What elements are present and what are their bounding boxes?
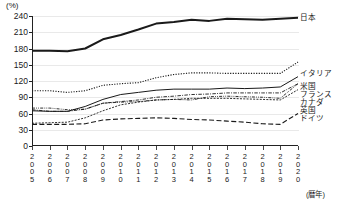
x-axis-label-digit: 0 — [115, 176, 127, 184]
y-axis-tick-label: 90 — [19, 93, 28, 102]
legend-item-label: 日本 — [300, 14, 316, 22]
x-axis-label-digit: 7 — [239, 176, 251, 184]
x-axis-tick — [227, 146, 228, 150]
y-axis-unit-label: (%) — [6, 1, 18, 10]
x-axis-label-digit: 2 — [150, 176, 162, 184]
x-axis-tick — [138, 146, 139, 150]
x-axis-tick-label: 2014 — [186, 153, 198, 183]
x-axis-label-digit: 8 — [79, 176, 91, 184]
legend-item-label: ドイツ — [300, 115, 324, 123]
x-axis-label-digit: 9 — [97, 176, 109, 184]
x-axis-tick-label: 2005 — [26, 153, 38, 183]
y-axis-tick-label: 120 — [14, 77, 28, 86]
y-axis-tick-label: 150 — [14, 61, 28, 70]
y-axis-tick-label: 60 — [19, 109, 28, 118]
x-axis-tick-label: 2011 — [132, 153, 144, 183]
legend-item-イタリア[interactable]: イタリア — [300, 70, 332, 78]
x-axis-tick-label: 2013 — [168, 153, 180, 183]
x-axis-label-digit: 1 — [132, 176, 144, 184]
x-axis-tick — [298, 146, 299, 150]
x-axis-tick — [280, 146, 281, 150]
x-axis-tick — [32, 146, 33, 150]
x-axis-label-digit: 4 — [186, 176, 198, 184]
y-axis-tick-label: 240 — [14, 12, 28, 21]
x-axis-tick — [174, 146, 175, 150]
x-axis-label-digit: 5 — [203, 176, 215, 184]
x-axis-label-digit: 8 — [257, 176, 269, 184]
legend: 日本イタリア米国フランスカナダ英国ドイツ — [300, 0, 355, 150]
x-axis-caption: (暦年) — [306, 188, 325, 199]
y-axis-tick-label: 210 — [14, 28, 28, 37]
x-axis-tick — [245, 146, 246, 150]
legend-item-label: イタリア — [300, 70, 332, 78]
x-axis-label-digit: 0 — [292, 176, 304, 184]
x-axis-tick — [263, 146, 264, 150]
y-axis-tick-label: 0 — [23, 142, 28, 151]
legend-item-ドイツ[interactable]: ドイツ — [300, 115, 324, 123]
x-axis-tick-label: 2006 — [44, 153, 56, 183]
x-axis-tick-label: 2007 — [61, 153, 73, 183]
x-axis-tick — [85, 146, 86, 150]
series-line-ドイツ — [32, 114, 298, 125]
x-axis-tick-label: 2009 — [97, 153, 109, 183]
x-axis-tick — [103, 146, 104, 150]
x-axis-tick-label: 2019 — [274, 153, 286, 183]
x-axis-tick — [209, 146, 210, 150]
x-axis-tick-label: 2017 — [239, 153, 251, 183]
legend-item-日本[interactable]: 日本 — [300, 14, 316, 22]
x-axis-label-digit: 5 — [26, 176, 38, 184]
x-axis-tick — [192, 146, 193, 150]
y-axis-tick-label: 180 — [14, 44, 28, 53]
series-lines — [32, 16, 298, 146]
series-line-米国 — [32, 77, 298, 112]
x-axis: 2005200620072008200920102011201220132014… — [32, 146, 298, 206]
series-line-日本 — [32, 18, 298, 52]
x-axis-tick — [156, 146, 157, 150]
x-axis-tick-label: 2012 — [150, 153, 162, 183]
x-axis-label-digit: 6 — [221, 176, 233, 184]
x-axis-tick-label: 2018 — [257, 153, 269, 183]
x-axis-tick-label: 2008 — [79, 153, 91, 183]
x-axis-tick-label: 2010 — [115, 153, 127, 183]
x-axis-tick-label: 2015 — [203, 153, 215, 183]
x-axis-tick-label: 2016 — [221, 153, 233, 183]
x-axis-tick — [121, 146, 122, 150]
x-axis-tick — [50, 146, 51, 150]
chart-container: (%) 0306090120150180210240 2005200620072… — [0, 0, 355, 206]
y-axis-tick-label: 30 — [19, 126, 28, 135]
x-axis-label-digit: 9 — [274, 176, 286, 184]
x-axis-label-digit: 7 — [61, 176, 73, 184]
x-axis-tick — [67, 146, 68, 150]
x-axis-label-digit: 6 — [44, 176, 56, 184]
x-axis-tick-label: 2020 — [292, 153, 304, 183]
x-axis-label-digit: 3 — [168, 176, 180, 184]
